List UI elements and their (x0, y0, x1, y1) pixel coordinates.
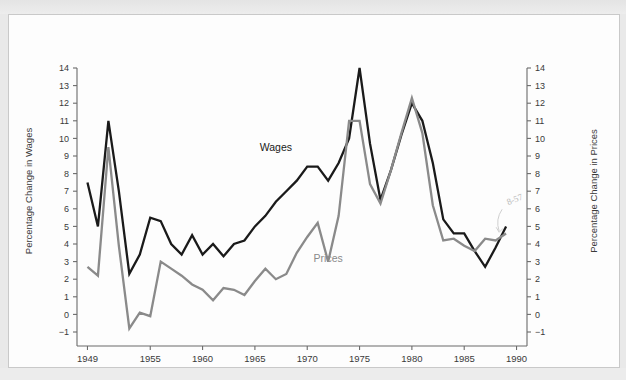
right-axis-tick-label: 9 (535, 151, 540, 161)
right-axis-tick-label: 3 (535, 257, 540, 267)
right-axis-tick-label: 11 (535, 116, 544, 126)
right-axis: −101234567891011121314 (527, 63, 545, 346)
right-axis-tick-label: 7 (535, 186, 540, 196)
right-axis-tick-label: 4 (535, 239, 540, 249)
left-axis-tick-label: 6 (64, 204, 69, 214)
left-axis-tick-label: 12 (59, 98, 69, 108)
left-axis-tick-label: 11 (60, 116, 69, 126)
handwritten-arrow-head (496, 227, 503, 232)
right-axis-title: Percentage Change in Prices (588, 129, 599, 253)
left-axis-title: Percentage Change in Wages (23, 128, 34, 255)
left-axis-tick-label: 14 (59, 63, 69, 73)
left-axis-tick-label: 13 (59, 81, 69, 91)
chart-canvas: −101234567891011121314 −1012345678910111… (9, 15, 619, 367)
left-axis-tick-label: 2 (64, 274, 69, 284)
left-axis-tick-label: −1 (59, 327, 69, 337)
left-axis: −101234567891011121314 (59, 63, 77, 346)
left-axis-tick-label: 4 (64, 239, 69, 249)
right-axis-tick-label: 14 (535, 63, 545, 73)
data-series-group (87, 68, 506, 328)
left-axis-tick-label: 0 (64, 310, 69, 320)
right-axis-tick-label: 8 (535, 169, 540, 179)
handwritten-annotation-group: 8-57 (496, 191, 525, 232)
dual-axis-line-chart: −101234567891011121314 −1012345678910111… (9, 15, 619, 367)
series-label-wages: Wages (260, 141, 292, 153)
left-axis-tick-label: 3 (64, 257, 69, 267)
series-line-wages (87, 68, 506, 274)
right-axis-tick-label: 2 (535, 274, 540, 284)
x-axis-tick-label: 1965 (244, 353, 265, 364)
x-axis-tick-label: 1980 (401, 353, 422, 364)
left-axis-tick-label: 8 (64, 169, 69, 179)
right-axis-tick-label: 1 (535, 292, 540, 302)
x-axis-tick-label: 1955 (140, 353, 161, 364)
x-axis-tick-label: 1970 (297, 353, 318, 364)
handwritten-arrow-shaft (498, 209, 502, 231)
left-axis-tick-label: 1 (64, 292, 69, 302)
right-axis-tick-label: 12 (535, 98, 545, 108)
document-sheet: −101234567891011121314 −1012345678910111… (8, 14, 620, 368)
right-axis-tick-label: −1 (535, 327, 545, 337)
right-axis-tick-label: 10 (535, 134, 545, 144)
left-axis-tick-label: 10 (59, 134, 69, 144)
screenshot-root: −101234567891011121314 −1012345678910111… (0, 0, 626, 380)
right-axis-tick-label: 6 (535, 204, 540, 214)
scan-bottom-band (0, 368, 626, 380)
handwritten-note: 8-57 (505, 191, 525, 207)
series-label-prices: Prices (314, 252, 343, 264)
x-axis-tick-label: 1990 (506, 353, 527, 364)
x-axis-tick-label: 1960 (192, 353, 213, 364)
right-axis-tick-label: 13 (535, 81, 545, 91)
left-axis-tick-label: 5 (64, 222, 69, 232)
scan-top-band (0, 0, 626, 14)
x-axis-tick-label: 1949 (77, 353, 98, 364)
left-axis-tick-label: 7 (64, 186, 69, 196)
left-axis-tick-label: 9 (64, 151, 69, 161)
right-axis-tick-label: 5 (535, 222, 540, 232)
right-axis-tick-label: 0 (535, 310, 540, 320)
x-axis: 194919551960196519701975198019851990 (77, 346, 527, 364)
x-axis-tick-label: 1975 (349, 353, 370, 364)
x-axis-tick-label: 1985 (454, 353, 475, 364)
